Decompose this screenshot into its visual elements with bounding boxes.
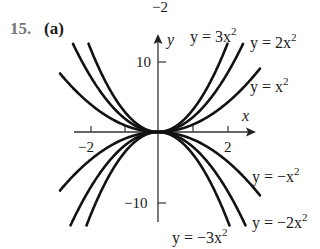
x-axis-label: x [241,107,249,124]
label-3x2-text: y = 3x [190,28,231,46]
top-fragment: −2 [152,0,168,15]
label-3x2-sup: 2 [231,25,237,37]
x-tick-label-2: 2 [224,139,232,155]
parabola-family-figure: −2 15. (a) x y −2 2 10 −10 y = 3x2 y = 2… [0,0,320,249]
label-x2-sup: 2 [283,75,289,87]
x-tick-label-neg2: −2 [78,139,94,155]
label-neg-x2: y = −x2 [252,165,300,186]
problem-number: 15. [10,19,31,38]
label-neg-2x2-text: y = −2x [252,214,302,232]
y-tick-label-10: 10 [136,54,151,70]
curve-y-x-2 [60,69,260,132]
y-tick-label-neg10: −10 [124,195,147,211]
label-neg-3x2: y = −3x2 [172,226,228,247]
label-2x2-text: y = 2x [250,34,291,52]
label-x2-text: y = x [250,78,283,96]
label-x2: y = x2 [250,75,289,96]
y-axis-label: y [165,31,175,49]
part-label: (a) [44,19,64,38]
label-neg-2x2-sup: 2 [302,211,308,223]
label-neg-3x2-sup: 2 [222,226,228,238]
curves [60,44,260,226]
label-neg-2x2: y = −2x2 [252,211,308,232]
label-3x2: y = 3x2 [190,25,237,46]
label-neg-x2-sup: 2 [294,165,300,177]
label-2x2-sup: 2 [291,31,297,43]
label-2x2: y = 2x2 [250,31,297,52]
label-neg-3x2-text: y = −3x [172,229,222,247]
label-neg-x2-text: y = −x [252,168,294,186]
